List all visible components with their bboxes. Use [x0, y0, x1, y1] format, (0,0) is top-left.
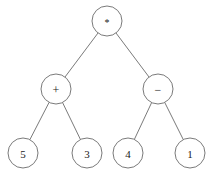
- tree-edge-minus-to-leaf4: [134, 103, 151, 140]
- tree-node-leaf1[interactable]: 1: [175, 138, 205, 168]
- node-label-leaf1: 1: [187, 148, 193, 160]
- node-label-plus: +: [53, 83, 60, 97]
- tree-edge-plus-to-leaf5: [30, 102, 49, 139]
- node-label-root: *: [105, 17, 110, 28]
- tree-edge-plus-to-leaf3: [63, 103, 81, 140]
- node-label-minus: −: [155, 83, 162, 97]
- expression-tree-figure: *+−5341: [0, 0, 214, 173]
- tree-node-leaf3[interactable]: 3: [72, 138, 102, 168]
- tree-node-root[interactable]: *: [92, 6, 122, 36]
- tree-node-plus[interactable]: +: [41, 74, 71, 104]
- tree-edge-root-to-plus: [65, 33, 98, 77]
- tree-edge-minus-to-leaf1: [165, 102, 184, 139]
- expression-tree-canvas: *+−5341: [0, 0, 214, 173]
- tree-node-leaf4[interactable]: 4: [113, 138, 143, 168]
- node-label-leaf3: 3: [84, 148, 90, 160]
- tree-node-leaf5[interactable]: 5: [8, 138, 38, 168]
- node-label-leaf4: 4: [125, 148, 131, 160]
- node-label-leaf5: 5: [20, 148, 26, 160]
- tree-edge-root-to-minus: [116, 33, 149, 77]
- tree-node-minus[interactable]: −: [143, 74, 173, 104]
- tree-nodes: *+−5341: [8, 6, 205, 168]
